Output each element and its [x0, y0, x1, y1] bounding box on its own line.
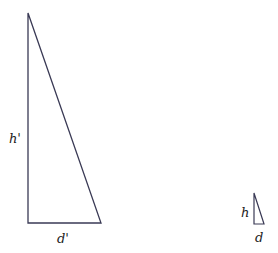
- diagram-canvas: h' d' h d: [0, 0, 278, 253]
- small-height-label: h: [241, 205, 249, 220]
- large-height-label: h': [9, 131, 21, 146]
- large-base-label: d': [57, 231, 69, 246]
- small-base-label: d: [255, 230, 263, 245]
- small-triangle: [254, 193, 264, 224]
- large-triangle: [28, 13, 101, 223]
